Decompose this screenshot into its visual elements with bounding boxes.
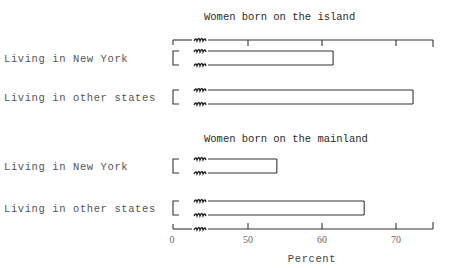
axis-break-icon — [194, 158, 206, 161]
axis-break-icon — [194, 89, 206, 92]
tick-label: 50 — [243, 234, 253, 245]
bar-left-bracket — [173, 51, 179, 65]
axis-break-icon — [194, 39, 206, 42]
tick-label: 0 — [170, 234, 175, 245]
category-label: Living in New York — [4, 161, 128, 173]
axis-break-icon — [194, 228, 206, 231]
axis-break-icon — [194, 103, 206, 106]
bar-left-bracket — [173, 90, 179, 104]
category-label: Living in New York — [4, 53, 128, 65]
axis-break-icon — [194, 200, 206, 203]
chart: Women born on the islandLiving in New Yo… — [0, 0, 450, 268]
panel: Women born on the islandLiving in New Yo… — [4, 11, 433, 105]
axis-break-icon — [194, 172, 206, 175]
category-label: Living in other states — [4, 203, 156, 215]
axis-break-icon — [194, 64, 206, 67]
panel: Women born on the mainlandLiving in New … — [4, 133, 368, 216]
panel-title: Women born on the mainland — [204, 133, 368, 145]
axis-break-icon — [194, 214, 206, 217]
bar-left-bracket — [173, 201, 179, 215]
tick-label: 60 — [317, 234, 327, 245]
tick-label: 70 — [391, 234, 401, 245]
panel-title: Women born on the island — [204, 11, 355, 23]
x-axis: 0506070 — [170, 222, 434, 245]
bar-left-bracket — [173, 159, 179, 173]
x-axis-label: Percent — [288, 253, 336, 265]
axis-break-icon — [194, 50, 206, 53]
category-label: Living in other states — [4, 92, 156, 104]
